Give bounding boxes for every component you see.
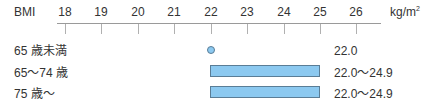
tick-26 <box>356 24 357 34</box>
row-value-65-74: 22.0〜24.9 <box>334 66 393 80</box>
tick-25 <box>320 24 321 34</box>
range-bar-65-74 <box>210 65 320 77</box>
data-point-under-65 <box>207 46 215 54</box>
tick-label-24: 24 <box>277 5 290 19</box>
tick-18 <box>65 24 66 34</box>
tick-label-23: 23 <box>240 5 253 19</box>
axis-unit-superscript: 2 <box>416 5 420 12</box>
tick-20 <box>138 24 139 34</box>
row-label-under-65: 65 歳未満 <box>14 44 67 58</box>
range-bar-75-plus <box>210 86 320 98</box>
tick-22 <box>211 24 212 34</box>
tick-label-22: 22 <box>204 5 217 19</box>
row-label-65-74: 65〜74 歳 <box>14 66 68 80</box>
tick-23 <box>247 24 248 34</box>
tick-label-19: 19 <box>94 5 107 19</box>
axis-unit-base: kg/m <box>390 5 416 19</box>
tick-label-25: 25 <box>313 5 326 19</box>
row-value-75-plus: 22.0〜24.9 <box>334 87 393 101</box>
row-value-under-65: 22.0 <box>334 44 357 58</box>
x-axis-line <box>57 23 381 24</box>
tick-label-20: 20 <box>131 5 144 19</box>
tick-label-21: 21 <box>167 5 180 19</box>
tick-label-18: 18 <box>58 5 71 19</box>
tick-label-26: 26 <box>349 5 362 19</box>
tick-21 <box>174 24 175 34</box>
axis-unit: kg/m2 <box>390 5 420 19</box>
row-label-75-plus: 75 歳〜 <box>14 87 55 101</box>
tick-24 <box>284 24 285 34</box>
tick-19 <box>101 24 102 34</box>
axis-title: BMI <box>14 5 35 19</box>
